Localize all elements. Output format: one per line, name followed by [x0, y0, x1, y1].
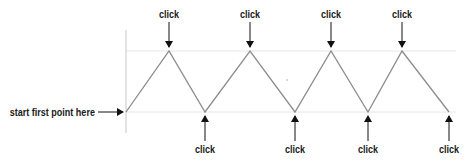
- start-point-label: start first point here: [10, 106, 95, 118]
- top-click-label-2: click: [234, 8, 267, 20]
- diagram-graphics: [0, 0, 471, 161]
- top-click-label-4: click: [386, 8, 419, 20]
- top-click-label-3: click: [315, 8, 348, 20]
- bottom-click-label-1: click: [189, 143, 222, 155]
- stray-dot: [286, 79, 288, 81]
- bottom-click-label-3: click: [352, 143, 385, 155]
- zigzag-line: [126, 51, 449, 112]
- top-click-label-1: click: [153, 8, 186, 20]
- bottom-click-label-4: click: [433, 143, 466, 155]
- zigzag-click-diagram: start first point here click click click…: [0, 0, 471, 161]
- bottom-click-label-2: click: [279, 143, 312, 155]
